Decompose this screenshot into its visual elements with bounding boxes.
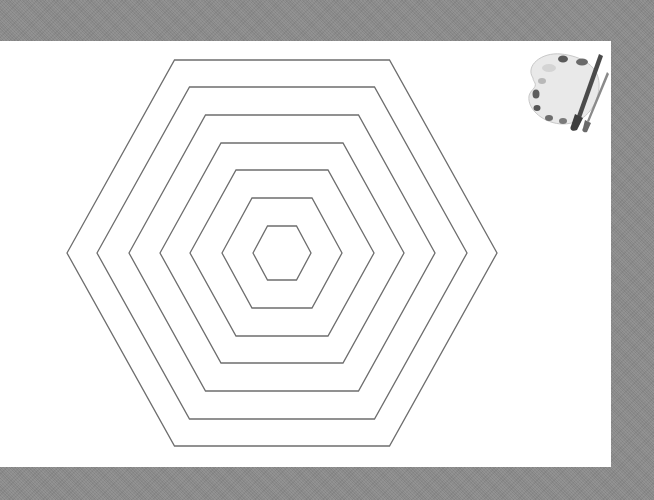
concentric-hexagons bbox=[0, 0, 654, 500]
hexagon-ring-6 bbox=[97, 87, 467, 419]
hexagon-ring-1 bbox=[253, 226, 311, 280]
hexagon-ring-4 bbox=[160, 143, 404, 363]
hexagon-ring-3 bbox=[190, 170, 374, 336]
hexagon-ring-7 bbox=[67, 60, 497, 446]
hexagon-rings bbox=[67, 60, 497, 446]
paint-palette-icon[interactable] bbox=[529, 54, 609, 132]
hexagon-ring-5 bbox=[129, 115, 435, 391]
hexagon-ring-2 bbox=[222, 198, 342, 308]
